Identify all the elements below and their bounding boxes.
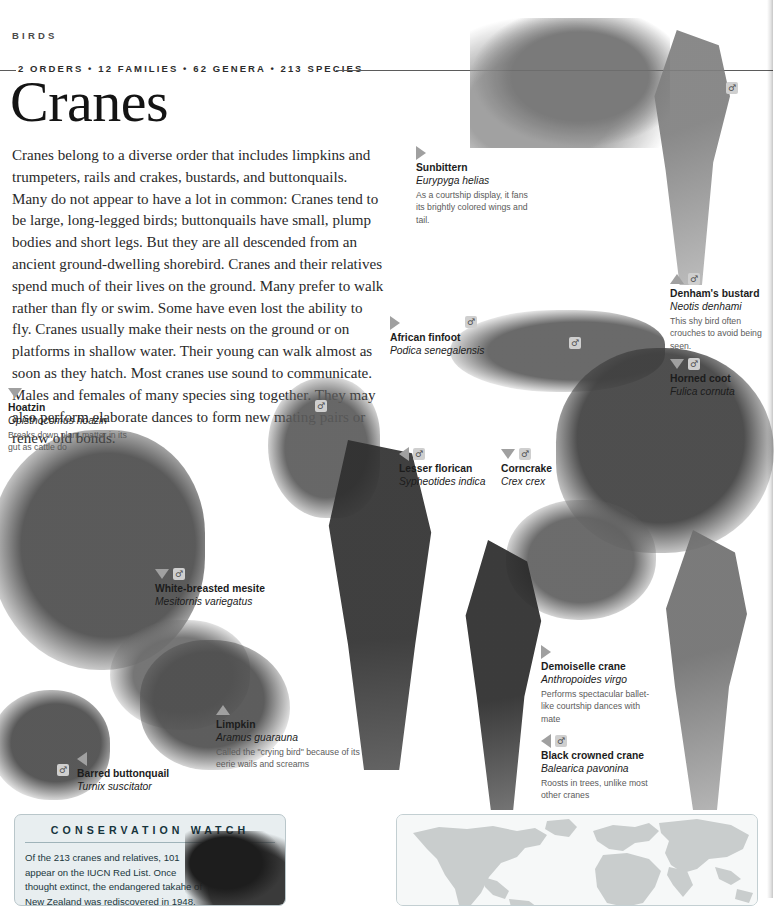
art-sunbittern [470,18,670,148]
pointer-left-icon [399,447,409,461]
species-common-name: White-breasted mesite [155,583,305,596]
species-caption-hoatzin: Hoatzin Opisthocomus hoazin Breaks down … [8,386,132,454]
species-caption-black-crowned-crane: ♂ Black crowned crane Balearica pavonina… [541,734,659,802]
species-caption-corncrake: ♂ Corncrake Crex crex [501,447,597,489]
male-symbol-badge: ♂ [315,400,327,412]
species-common-name: Black crowned crane [541,750,659,763]
species-latin-name: Neotis denhami [670,301,770,314]
species-common-name: Barred buttonquail [77,768,207,781]
caption-marks [541,645,659,658]
species-note: Performs spectacular ballet-like courtsh… [541,688,659,726]
species-common-name: Hoatzin [8,402,132,415]
pointer-down-icon [8,388,22,398]
species-latin-name: Fulica cornuta [670,386,770,399]
species-common-name: Lesser florican [399,463,491,476]
pointer-right-icon [390,316,400,330]
species-latin-name: Aramus guarauna [216,732,366,745]
species-latin-name: Sypheotides indica [399,476,491,489]
distribution-map-panel [396,814,758,906]
species-common-name: Corncrake [501,463,597,476]
species-common-name: Demoiselle crane [541,661,659,674]
pointer-down-icon [670,359,684,369]
species-latin-name: Mesitornis variegatus [155,596,305,609]
male-symbol-badge: ♂ [57,764,69,776]
male-symbol-badge: ♂ [688,273,700,285]
species-common-name: Sunbittern [416,162,536,175]
caption-marks [416,146,536,159]
caption-marks: ♂ [670,272,770,285]
species-latin-name: Podica senegalensis [390,345,498,358]
art-corncrake [506,500,656,620]
art-takahe [185,831,286,906]
species-common-name: African finfoot [390,332,498,345]
page-edge-shadow [767,0,773,898]
species-note: As a courtship display, it fans its brig… [416,189,536,227]
pointer-up-icon [670,274,684,284]
male-symbol-badge: ♂ [173,568,185,580]
male-symbol-badge: ♂ [413,448,425,460]
rule-right [336,70,773,71]
species-caption-lesser-florican: ♂ Lesser florican Sypheotides indica [399,447,491,489]
pointer-up-icon [216,705,230,715]
pointer-down-icon [501,449,515,459]
species-note: Roosts in trees, unlike most other crane… [541,777,659,802]
caption-marks [216,703,366,716]
pointer-down-icon [155,569,169,579]
species-note: Breaks down plant matter in its gut as c… [8,429,132,454]
pointer-left-icon [77,752,87,766]
species-latin-name: Eurypyga helias [416,175,536,188]
species-common-name: Horned coot [670,373,770,386]
caption-marks: ♂ [501,447,597,460]
species-latin-name: Turnix suscitator [77,781,207,794]
page-title: Cranes [10,73,168,131]
species-caption-limpkin: Limpkin Aramus guarauna Called the "cryi… [216,703,366,771]
pointer-left-icon [541,734,551,748]
caption-marks [77,752,207,765]
conservation-watch-panel: CONSERVATION WATCH Of the 213 cranes and… [14,814,286,906]
species-latin-name: Anthropoides virgo [541,674,659,687]
species-caption-african-finfoot: African finfoot Podica senegalensis [390,316,498,358]
caption-marks: ♂ [670,357,770,370]
caption-marks [390,316,498,329]
male-symbol-badge: ♂ [569,337,581,349]
art-hoatzin [0,430,205,670]
running-head: BIRDS [12,30,58,41]
world-map-svg [397,815,758,906]
species-note: Called the "crying bird" because of its … [216,746,366,771]
male-symbol-badge: ♂ [519,448,531,460]
species-latin-name: Balearica pavonina [541,763,659,776]
species-caption-sunbittern: Sunbittern Eurypyga helias As a courtshi… [416,146,536,226]
species-common-name: Denham's bustard [670,288,770,301]
species-common-name: Limpkin [216,719,366,732]
male-symbol-badge: ♂ [555,735,567,747]
species-latin-name: Crex crex [501,476,597,489]
species-caption-denhams-bustard: ♂ Denham's bustard Neotis denhami This s… [670,272,770,352]
pointer-right-icon [541,645,551,659]
conservation-watch-body: Of the 213 cranes and relatives, 101 app… [25,851,207,906]
caption-marks [8,386,132,399]
pointer-right-icon [416,146,426,160]
caption-marks: ♂ [399,447,491,460]
species-caption-demoiselle-crane: Demoiselle crane Anthropoides virgo Perf… [541,645,659,725]
caption-marks: ♂ [155,567,305,580]
species-caption-white-breasted-mesite: ♂ White-breasted mesite Mesitornis varie… [155,567,305,609]
species-caption-horned-coot: ♂ Horned coot Fulica cornuta [670,357,770,399]
male-symbol-badge: ♂ [688,358,700,370]
species-latin-name: Opisthocomus hoazin [8,415,132,428]
species-note: This shy bird often crouches to avoid be… [670,315,770,353]
species-caption-barred-buttonquail: Barred buttonquail Turnix suscitator [77,752,207,794]
caption-marks: ♂ [541,734,659,747]
male-symbol-badge: ♂ [726,82,738,94]
